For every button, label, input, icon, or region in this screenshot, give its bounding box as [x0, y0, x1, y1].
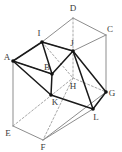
edge-DC — [73, 18, 106, 35]
vertex-label-K: K — [52, 98, 59, 107]
vertex-label-F: F — [40, 143, 45, 152]
edge-EF — [13, 126, 43, 140]
edge-ID — [42, 18, 73, 42]
box-edges-group — [13, 18, 106, 140]
vertex-label-G: G — [109, 89, 116, 98]
vertex-label-B: B — [44, 63, 50, 72]
vertex-dot-J — [71, 49, 75, 53]
edge-JG — [73, 51, 106, 92]
edge-EH — [13, 78, 73, 126]
edge-BK — [51, 74, 52, 95]
solid-edges-group — [13, 42, 106, 109]
vertex-label-L: L — [93, 113, 99, 122]
vertex-label-E: E — [5, 129, 11, 138]
vertex-label-J: J — [70, 39, 74, 48]
edge-CJ — [73, 35, 106, 51]
geometry-figure: ABCDEFGHIJKL — [0, 0, 122, 151]
figure-canvas — [0, 0, 122, 151]
vertex-dot-A — [11, 59, 15, 63]
vertex-label-C: C — [107, 25, 113, 34]
edge-BJ — [52, 51, 73, 74]
vertex-dot-I — [40, 40, 44, 44]
vertex-label-A: A — [4, 53, 11, 62]
hidden-edges-group — [13, 18, 106, 140]
vertex-label-D: D — [70, 4, 77, 13]
vertex-label-H: H — [70, 82, 77, 91]
vertex-dot-L — [91, 107, 95, 111]
vertex-label-I: I — [38, 29, 41, 38]
vertex-dot-G — [104, 90, 108, 94]
edge-IJ — [42, 42, 73, 51]
vertex-dot-B — [50, 72, 54, 76]
edge-AI — [13, 42, 42, 61]
